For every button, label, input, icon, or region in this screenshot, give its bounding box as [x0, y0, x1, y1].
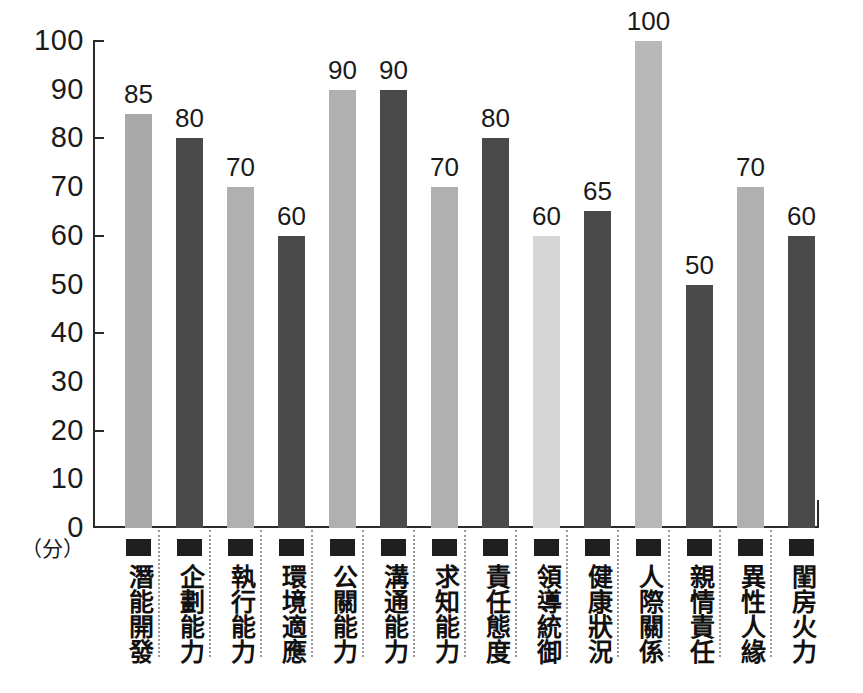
y-axis-tick-mark — [93, 430, 104, 432]
category-column: 公關能力 — [317, 528, 368, 693]
bar-value-label: 70 — [208, 154, 273, 180]
category-label: 領導統御 — [521, 564, 572, 684]
category-label: 健康狀況 — [572, 564, 623, 684]
bar-value-label: 60 — [259, 203, 324, 229]
category-label: 企劃能力 — [164, 564, 215, 684]
bar-slot: 90 — [368, 41, 419, 528]
bar-value-label: 80 — [463, 105, 528, 131]
bar-slot: 70 — [725, 41, 776, 528]
category-marker-icon — [789, 539, 814, 556]
bar-value-label: 65 — [565, 178, 630, 204]
bar[interactable] — [125, 114, 152, 528]
bar-slot: 80 — [470, 41, 521, 528]
y-axis-tick-mark — [93, 235, 104, 237]
bar[interactable] — [686, 285, 713, 529]
bar-value-label: 70 — [718, 154, 783, 180]
y-axis-tick-label: 50 — [4, 270, 84, 299]
category-label-area: 潛能開發企劃能力執行能力環境適應公關能力溝通能力求知能力責任態度領導統御健康狀況… — [93, 528, 819, 693]
y-axis-tick-label: 30 — [4, 367, 84, 396]
bar[interactable] — [176, 138, 203, 528]
bar-slot: 50 — [674, 41, 725, 528]
category-column: 求知能力 — [419, 528, 470, 693]
bar-slot: 70 — [215, 41, 266, 528]
category-column: 異性人緣 — [725, 528, 776, 693]
category-column: 溝通能力 — [368, 528, 419, 693]
category-separator — [413, 530, 415, 657]
bar[interactable] — [584, 211, 611, 528]
bar-slot: 60 — [776, 41, 827, 528]
category-marker-icon — [534, 539, 559, 556]
y-axis-tick-label: 90 — [4, 75, 84, 104]
bar[interactable] — [533, 236, 560, 528]
bar[interactable] — [329, 90, 356, 528]
bar-value-label: 100 — [616, 8, 681, 34]
bar[interactable] — [380, 90, 407, 528]
category-label: 環境適應 — [266, 564, 317, 684]
y-axis-tick-mark — [93, 332, 104, 334]
category-label: 閨房火力 — [776, 564, 827, 684]
bar-value-label: 90 — [361, 57, 426, 83]
category-label: 執行能力 — [215, 564, 266, 684]
category-marker-icon — [228, 539, 253, 556]
bar-slot: 60 — [521, 41, 572, 528]
bar-slot: 100 — [623, 41, 674, 528]
category-column: 潛能開發 — [113, 528, 164, 693]
category-separator — [668, 530, 670, 657]
y-axis-tick-mark — [93, 137, 104, 139]
bar[interactable] — [431, 187, 458, 528]
category-marker-icon — [636, 539, 661, 556]
y-axis-tick-label: 80 — [4, 123, 84, 152]
category-label: 親情責任 — [674, 564, 725, 684]
y-axis-tick-label: 60 — [4, 221, 84, 250]
bar[interactable] — [227, 187, 254, 528]
category-marker-icon — [432, 539, 457, 556]
category-marker-icon — [381, 539, 406, 556]
y-axis-tick-label: 10 — [4, 464, 84, 493]
category-column: 領導統御 — [521, 528, 572, 693]
bar-value-label: 60 — [769, 203, 834, 229]
y-axis-tick-label: 40 — [4, 318, 84, 347]
category-separator — [719, 530, 721, 657]
bar-chart: 1009080706050403020100 （分） 8580706090907… — [0, 0, 863, 693]
bar-slot: 60 — [266, 41, 317, 528]
bar-value-label: 50 — [667, 252, 732, 278]
category-marker-icon — [177, 539, 202, 556]
y-axis-tick-label: 70 — [4, 172, 84, 201]
category-separator — [362, 530, 364, 657]
category-separator — [464, 530, 466, 657]
bar[interactable] — [482, 138, 509, 528]
category-marker-icon — [738, 539, 763, 556]
bar-value-label: 70 — [412, 154, 477, 180]
y-axis-tick-label: 100 — [4, 26, 84, 55]
category-column: 執行能力 — [215, 528, 266, 693]
bar-slot: 65 — [572, 41, 623, 528]
category-separator — [566, 530, 568, 657]
category-separator — [515, 530, 517, 657]
plot-area: 85807060909070806065100507060 — [93, 41, 819, 528]
y-axis-tick-mark — [93, 40, 104, 42]
bar[interactable] — [278, 236, 305, 528]
category-column: 人際關係 — [623, 528, 674, 693]
bar[interactable] — [788, 236, 815, 528]
bar-value-label: 85 — [106, 81, 171, 107]
category-label: 異性人緣 — [725, 564, 776, 684]
bar[interactable] — [635, 41, 662, 528]
category-column: 環境適應 — [266, 528, 317, 693]
category-marker-icon — [585, 539, 610, 556]
category-column: 親情責任 — [674, 528, 725, 693]
category-label: 公關能力 — [317, 564, 368, 684]
category-marker-icon — [279, 539, 304, 556]
category-column: 閨房火力 — [776, 528, 827, 693]
category-column: 企劃能力 — [164, 528, 215, 693]
category-column: 健康狀況 — [572, 528, 623, 693]
bar-slot: 80 — [164, 41, 215, 528]
category-separator — [158, 530, 160, 657]
category-label: 潛能開發 — [113, 564, 164, 684]
category-separator — [260, 530, 262, 657]
category-label: 溝通能力 — [368, 564, 419, 684]
category-marker-icon — [687, 539, 712, 556]
category-separator — [617, 530, 619, 657]
bar-value-label: 80 — [157, 105, 222, 131]
bar[interactable] — [737, 187, 764, 528]
category-separator — [311, 530, 313, 657]
